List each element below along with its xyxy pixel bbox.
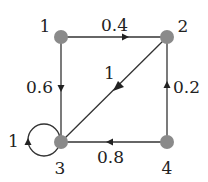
node-4-label: 4 — [162, 158, 173, 178]
markov-graph: 1 2 3 4 0.4 0.6 1 0.2 0.8 1 — [0, 0, 208, 182]
weight-4-2: 0.2 — [173, 77, 200, 97]
node-2 — [160, 30, 174, 44]
arrow-loop-up-icon — [25, 138, 32, 145]
arrow-down-icon — [58, 85, 65, 92]
node-2-label: 2 — [178, 16, 189, 36]
node-1-label: 1 — [40, 16, 51, 36]
weight-1-3: 0.6 — [26, 77, 53, 97]
weight-3-3: 1 — [8, 131, 19, 151]
arrow-left-icon — [106, 139, 113, 146]
weight-2-3: 1 — [104, 63, 115, 83]
weight-1-2: 0.4 — [101, 15, 128, 35]
node-3-label: 3 — [55, 158, 66, 178]
node-1 — [54, 30, 68, 44]
node-4 — [160, 135, 174, 149]
arrow-up-icon — [164, 81, 171, 88]
node-3 — [54, 135, 68, 149]
weight-4-3: 0.8 — [97, 147, 124, 167]
